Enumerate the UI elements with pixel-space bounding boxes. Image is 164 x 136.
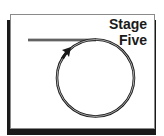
direction-arrow-icon — [61, 47, 71, 59]
stage-title: Stage Five — [77, 16, 147, 48]
